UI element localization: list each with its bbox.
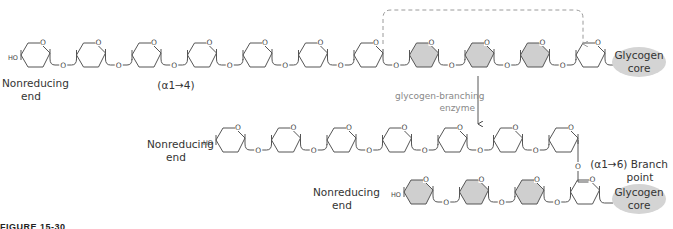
svg-text:O: O (429, 38, 435, 47)
label-line: end (313, 199, 371, 212)
middle-nonreducing-end-label: Nonreducing end (147, 138, 205, 164)
label-line: point (588, 171, 670, 184)
svg-text:O: O (282, 61, 288, 70)
svg-text:O: O (366, 146, 372, 155)
label-line: glycogen-branching (395, 90, 475, 102)
svg-text:HO: HO (391, 191, 401, 199)
alpha-1-4-linkage-label: (α1→4) (150, 79, 202, 92)
svg-text:O: O (443, 198, 449, 207)
svg-text:O: O (479, 175, 485, 184)
svg-text:O: O (346, 123, 352, 132)
label-line: Glycogen (614, 186, 663, 199)
svg-text:O: O (560, 61, 566, 70)
svg-text:HO: HO (8, 54, 18, 62)
svg-text:O: O (457, 123, 463, 132)
label-line: (α1→6) Branch (588, 158, 670, 171)
svg-text:O: O (291, 123, 297, 132)
label-line: Nonreducing (2, 77, 60, 90)
svg-text:O: O (575, 162, 581, 171)
label-line: Glycogen (614, 49, 663, 62)
svg-text:O: O (422, 146, 428, 155)
transfer-dashed-arrow (383, 10, 583, 44)
label-line: end (147, 151, 205, 164)
svg-text:O: O (171, 61, 177, 70)
svg-text:O: O (116, 61, 122, 70)
svg-text:O: O (207, 38, 213, 47)
label-line: Nonreducing (313, 186, 371, 199)
label-line: core (614, 62, 663, 75)
label-line: enzyme (395, 102, 475, 114)
label-line: core (614, 199, 663, 212)
svg-text:O: O (311, 146, 317, 155)
enzyme-label: glycogen-branching enzyme (395, 90, 475, 114)
bottom-nonreducing-end-label: Nonreducing end (313, 186, 371, 212)
top-glycogen-core: Glycogencore (612, 47, 666, 77)
svg-text:O: O (568, 123, 574, 132)
svg-text:O: O (499, 198, 505, 207)
svg-text:O: O (393, 61, 399, 70)
svg-text:O: O (423, 175, 429, 184)
svg-text:O: O (235, 123, 241, 132)
svg-text:O: O (373, 38, 379, 47)
svg-text:O: O (449, 61, 455, 70)
branch-point-label: (α1→6) Branch point (588, 158, 670, 184)
svg-text:O: O (227, 61, 233, 70)
svg-text:O: O (533, 146, 539, 155)
svg-text:O: O (255, 146, 261, 155)
svg-text:O: O (484, 38, 490, 47)
svg-text:O: O (595, 38, 601, 47)
label-line: end (2, 90, 60, 103)
svg-text:O: O (504, 61, 510, 70)
bottom-glycogen-core: Glycogencore (612, 184, 666, 214)
svg-text:O: O (60, 61, 66, 70)
top-nonreducing-end-label: Nonreducing end (2, 77, 60, 103)
label-line: Nonreducing (147, 138, 205, 151)
svg-text:O: O (402, 123, 408, 132)
svg-text:O: O (513, 123, 519, 132)
svg-text:O: O (318, 38, 324, 47)
figure-caption: FIGURE 15-30 (0, 222, 66, 229)
svg-text:O: O (96, 38, 102, 47)
svg-text:O: O (40, 38, 46, 47)
svg-text:O: O (554, 198, 560, 207)
svg-text:O: O (534, 175, 540, 184)
svg-text:O: O (477, 146, 483, 155)
svg-text:O: O (151, 38, 157, 47)
svg-text:O: O (338, 61, 344, 70)
svg-text:O: O (262, 38, 268, 47)
svg-text:O: O (540, 38, 546, 47)
